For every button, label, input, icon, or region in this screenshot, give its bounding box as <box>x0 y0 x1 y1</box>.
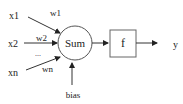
input-label-x1: x1 <box>9 10 19 21</box>
output-label: y <box>173 39 178 50</box>
sum-label: Sum <box>65 37 86 49</box>
input-label-x2: x2 <box>8 38 18 49</box>
weight-label-w2: w2 <box>36 33 47 43</box>
perceptron-diagram: x1 w1 x2 w2 ... xn wn Sum bias f y <box>0 0 183 104</box>
bias-label: bias <box>66 90 81 100</box>
weight-label-wn: wn <box>42 64 53 74</box>
input-label-xn: xn <box>8 67 18 78</box>
ellipsis: ... <box>35 49 41 58</box>
input-arrow-x1 <box>28 17 60 33</box>
activation-label: f <box>121 36 125 50</box>
weight-label-w1: w1 <box>50 8 61 18</box>
